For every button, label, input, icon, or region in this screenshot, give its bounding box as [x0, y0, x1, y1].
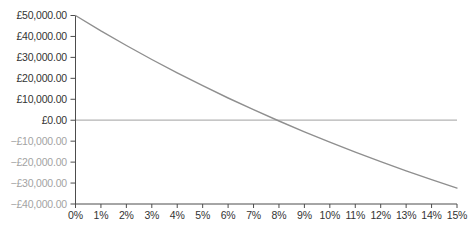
x-axis-tick-label: 0%: [68, 209, 83, 221]
x-axis-tick-label: 6%: [221, 209, 236, 221]
x-axis-tick-label: 14%: [421, 209, 441, 221]
npv-profile-chart-canvas: £50,000.00£40,000.00£30,000.00£20,000.00…: [0, 0, 474, 233]
y-axis-tick-label: −£10,000.00: [11, 135, 68, 147]
npv-curve: [76, 16, 458, 189]
x-axis-tick-label: 3%: [144, 209, 159, 221]
x-axis-tick-label: 4%: [170, 209, 185, 221]
x-axis-tick-label: 13%: [396, 209, 416, 221]
y-axis-tick-label: −£40,000.00: [11, 198, 68, 210]
x-axis-tick-label: 5%: [195, 209, 210, 221]
x-axis-tick-label: 7%: [246, 209, 261, 221]
y-axis-tick-label: £0.00: [42, 114, 68, 126]
x-axis-tick-label: 15%: [447, 209, 467, 221]
y-axis-tick-label: £10,000.00: [16, 93, 67, 105]
npv-profile-chart: £50,000.00£40,000.00£30,000.00£20,000.00…: [0, 0, 474, 233]
x-axis-tick-label: 2%: [119, 209, 134, 221]
x-axis-tick-label: 12%: [370, 209, 390, 221]
x-axis-tick-label: 10%: [320, 209, 340, 221]
y-axis-tick-label: −£30,000.00: [11, 177, 68, 189]
y-axis-tick-label: £40,000.00: [16, 30, 67, 42]
x-axis-tick-label: 8%: [272, 209, 287, 221]
y-axis-tick-label: £50,000.00: [16, 9, 67, 21]
y-axis-tick-label: £20,000.00: [16, 72, 67, 84]
x-axis-tick-label: 11%: [345, 209, 365, 221]
y-axis-tick-label: −£20,000.00: [11, 156, 68, 168]
x-axis-tick-label: 9%: [297, 209, 312, 221]
x-axis-tick-label: 1%: [94, 209, 109, 221]
y-axis-tick-label: £30,000.00: [16, 51, 67, 63]
